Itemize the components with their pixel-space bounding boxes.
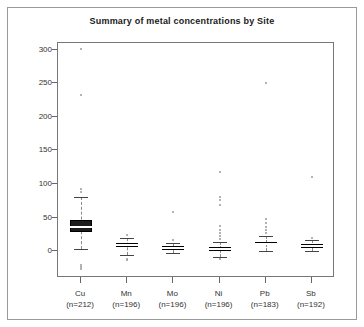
- boxplot-outlier-point: [219, 196, 221, 198]
- boxplot-outlier-point: [311, 237, 313, 239]
- x-axis-tick-label: Cu(n=212): [66, 288, 94, 310]
- boxplot-whisker-cap: [74, 249, 88, 250]
- boxplot-outlier-point: [126, 259, 128, 261]
- page-title: Summary of metal concentrations by Site: [0, 16, 364, 26]
- y-axis-tick-mark: [52, 250, 57, 251]
- boxplot-series-container: [58, 43, 333, 276]
- y-axis-tick-mark: [52, 116, 57, 117]
- category-count: (n=196): [205, 299, 233, 310]
- y-axis-tick-mark: [52, 82, 57, 83]
- x-axis-tick-label: Pb(n=183): [251, 288, 279, 310]
- category-symbol: Cu: [66, 288, 94, 299]
- y-axis-tick-mark: [52, 149, 57, 150]
- x-axis-tick-mark: [80, 277, 81, 283]
- boxplot-median-line: [301, 245, 323, 247]
- boxplot-median-line: [70, 226, 92, 228]
- category-symbol: Mo: [159, 288, 187, 299]
- y-axis-tick-label: 300: [39, 44, 52, 53]
- boxplot-outlier-point: [172, 239, 174, 241]
- boxplot-whisker-cap: [166, 243, 180, 244]
- figure-canvas: Summary of metal concentrations by Site …: [0, 0, 364, 327]
- category-symbol: Sb: [297, 288, 325, 299]
- boxplot-outlier-point: [219, 235, 221, 237]
- boxplot-outlier-point: [265, 218, 267, 220]
- boxplot-whisker-cap: [259, 251, 273, 252]
- boxplot-outlier-point: [126, 234, 128, 236]
- boxplot-whisker-cap: [305, 240, 319, 241]
- x-axis-tick-label: Mn(n=196): [112, 288, 140, 310]
- boxplot-outlier-point: [219, 232, 221, 234]
- boxplot-outlier-point: [80, 48, 82, 50]
- x-axis-tick-label: Ni(n=196): [205, 288, 233, 310]
- category-count: (n=183): [251, 299, 279, 310]
- y-axis-tick-label: 250: [39, 78, 52, 87]
- x-axis-tick-mark: [219, 277, 220, 283]
- boxplot-median-line: [162, 247, 184, 249]
- boxplot-outlier-point: [265, 232, 267, 234]
- boxplot-outlier-point: [80, 268, 82, 270]
- boxplot-whisker-cap: [305, 251, 319, 252]
- y-axis-tick-label: 50: [43, 212, 52, 221]
- x-axis-tick-label: Sb(n=192): [297, 288, 325, 310]
- boxplot-outlier-point: [172, 211, 174, 213]
- category-symbol: Pb: [251, 288, 279, 299]
- category-symbol: Mn: [112, 288, 140, 299]
- boxplot-outlier-point: [265, 226, 267, 228]
- boxplot-outlier-point: [80, 191, 82, 193]
- boxplot-outlier-point: [311, 176, 313, 178]
- boxplot-whisker-cap: [120, 255, 134, 256]
- y-axis-tick-mark: [52, 49, 57, 50]
- x-axis-tick-mark: [172, 277, 173, 283]
- boxplot-whisker-cap: [259, 236, 273, 237]
- x-axis-tick-mark: [311, 277, 312, 283]
- boxplot-outlier-point: [265, 222, 267, 224]
- y-axis-tick-label: 100: [39, 179, 52, 188]
- boxplot-median-line: [255, 243, 277, 245]
- y-axis-tick-mark: [52, 183, 57, 184]
- boxplot-median-line: [209, 248, 231, 250]
- category-count: (n=196): [159, 299, 187, 310]
- boxplot-outlier-point: [219, 204, 221, 206]
- boxplot-outlier-point: [265, 82, 267, 84]
- boxplot-outlier-point: [219, 199, 221, 201]
- boxplot-outlier-point: [219, 258, 221, 260]
- x-axis-tick-mark: [126, 277, 127, 283]
- boxplot-whisker-cap: [74, 197, 88, 198]
- boxplot-median-line: [116, 244, 138, 246]
- category-count: (n=196): [112, 299, 140, 310]
- boxplot-outlier-point: [80, 94, 82, 96]
- boxplot-outlier-point: [80, 264, 82, 266]
- x-axis-tick-label: Mo(n=196): [159, 288, 187, 310]
- y-axis-tick-label: 150: [39, 145, 52, 154]
- category-symbol: Ni: [205, 288, 233, 299]
- y-axis-tick-mark: [52, 217, 57, 218]
- boxplot-outlier-point: [219, 238, 221, 240]
- category-count: (n=212): [66, 299, 94, 310]
- plot-area: [57, 42, 334, 277]
- boxplot-whisker-cap: [166, 253, 180, 254]
- y-axis-tick-label: 200: [39, 111, 52, 120]
- y-axis: 050100150200250300: [18, 42, 52, 277]
- boxplot-outlier-point: [219, 171, 221, 173]
- boxplot-whisker-cap: [120, 238, 134, 239]
- boxplot-outlier-point: [80, 188, 82, 190]
- x-axis-tick-mark: [265, 277, 266, 283]
- boxplot-outlier-point: [219, 225, 221, 227]
- category-count: (n=192): [297, 299, 325, 310]
- boxplot-outlier-point: [219, 229, 221, 231]
- boxplot-whisker-cap: [213, 242, 227, 243]
